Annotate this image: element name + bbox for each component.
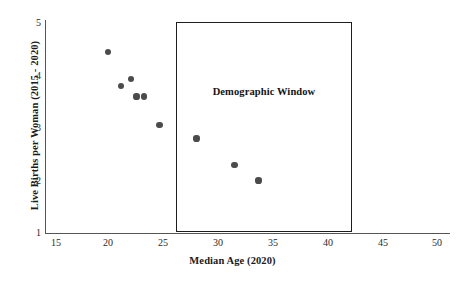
x-axis-line <box>45 233 450 234</box>
x-tick-label-25: 25 <box>151 237 175 248</box>
x-tick-label-50: 50 <box>425 237 449 248</box>
data-point <box>105 49 111 55</box>
data-point <box>128 76 134 82</box>
x-tick-label-45: 45 <box>371 237 395 248</box>
data-point <box>255 177 261 183</box>
x-tick-label-15: 15 <box>44 237 68 248</box>
scatter-chart: 15 20 25 30 35 40 45 50 1 2 3 4 5 Demogr… <box>0 0 465 282</box>
x-tick-label-35: 35 <box>261 237 285 248</box>
y-axis-line <box>45 20 46 234</box>
data-point <box>231 162 237 168</box>
x-axis-title: Median Age (2020) <box>0 255 465 266</box>
y-axis-title: Live Births per Woman (2015 - 2020) <box>29 18 40 233</box>
x-tick-label-30: 30 <box>206 237 230 248</box>
plot-area: 15 20 25 30 35 40 45 50 1 2 3 4 5 Demogr… <box>0 0 465 282</box>
x-tick-label-20: 20 <box>96 237 120 248</box>
data-point <box>141 93 147 99</box>
demographic-window-label: Demographic Window <box>176 86 352 97</box>
data-point <box>118 83 124 89</box>
data-point <box>193 135 199 141</box>
data-point <box>133 93 139 99</box>
data-point <box>156 122 162 128</box>
x-tick-label-40: 40 <box>316 237 340 248</box>
demographic-window-box <box>176 22 352 232</box>
